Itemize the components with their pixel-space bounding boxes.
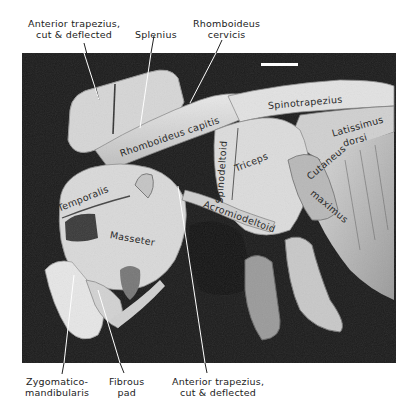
scale-bar (261, 63, 298, 66)
label-zygomaticomandibularis: Zygomatico- mandibularis (25, 376, 89, 398)
label-anterior-trapezius-top: Anterior trapezius, cut & deflected (28, 18, 120, 40)
label-splenius: Splenius (135, 29, 177, 40)
label-fibrous-pad: Fibrous pad (109, 376, 144, 398)
anatomy-figure: Anterior trapezius, cut & deflected Sple… (0, 0, 414, 398)
label-anterior-trapezius-bottom: Anterior trapezius, cut & deflected (172, 376, 264, 398)
label-rhomboideus-cervicis: Rhomboideus cervicis (193, 18, 260, 40)
